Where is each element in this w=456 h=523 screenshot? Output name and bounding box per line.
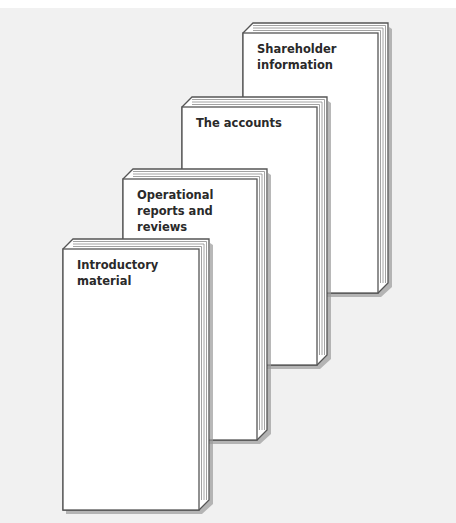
book-introductory-material: Introductory material (0, 0, 456, 523)
book-label: Introductory material (77, 257, 158, 289)
book-shape-icon (0, 0, 456, 523)
